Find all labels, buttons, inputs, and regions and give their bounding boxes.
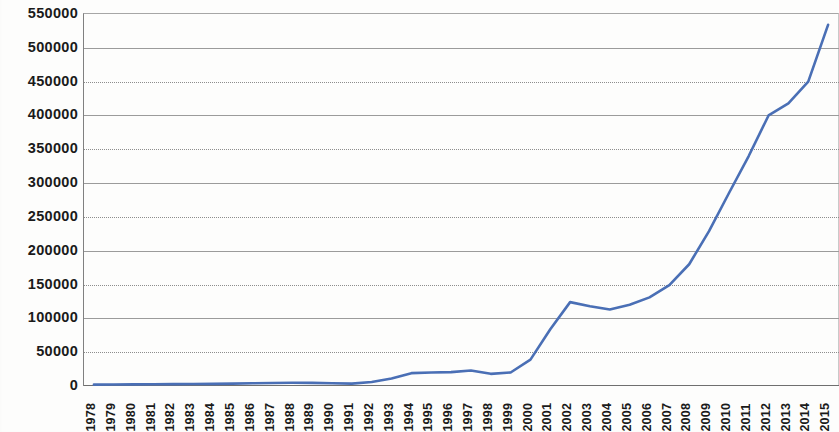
y-axis-tick-label: 450000 [0,73,78,88]
x-axis-tick-label: 1991 [343,403,356,432]
x-axis-tick-label: 1995 [423,403,436,432]
x-axis-tick-label: 1985 [224,403,237,432]
x-axis-tick-label: 2005 [621,403,634,432]
x-axis-tick-label: 1990 [324,403,337,432]
x-axis-tick-label: 1981 [145,403,158,432]
y-axis-tick-label: 500000 [0,40,78,55]
y-axis-tick-label: 400000 [0,107,78,122]
x-axis-tick-label: 1997 [463,403,476,432]
y-axis-tick-label: 250000 [0,209,78,224]
x-axis-tick-label: 1988 [284,403,297,432]
x-axis-tick-label: 2015 [820,403,833,432]
x-axis-tick-label: 2008 [681,403,694,432]
x-axis-tick-label: 2007 [661,403,674,432]
x-axis-tick-label: 2000 [522,403,535,432]
chart-page: 5500005000004500004000003500003000002500… [0,0,839,432]
x-axis-tick-label: 1978 [86,403,99,432]
x-axis-tick-label: 1989 [304,403,317,432]
data-series-line [84,14,838,386]
x-axis-tick-label: 2001 [542,403,555,432]
y-axis-tick-label: 100000 [0,310,78,325]
x-axis-tick-label: 1979 [105,403,118,432]
x-axis-tick-label: 1993 [383,403,396,432]
y-axis-tick-label: 300000 [0,175,78,190]
x-axis-tick-label: 2012 [760,403,773,432]
y-axis-tick-label: 150000 [0,276,78,291]
x-axis-tick-label: 2014 [800,403,813,432]
x-axis-tick-label: 1984 [205,403,218,432]
x-axis-tick-label: 1999 [502,403,515,432]
x-axis-labels: 1978197919801981198219831984198519861987… [83,388,839,432]
x-axis-tick-label: 2003 [582,403,595,432]
y-axis-tick-label: 550000 [0,6,78,21]
plot-area [83,13,839,386]
x-axis-tick-label: 2010 [720,403,733,432]
x-axis-tick-label: 1987 [264,403,277,432]
y-axis-labels: 5500005000004500004000003500003000002500… [0,0,78,432]
y-axis-tick-label: 350000 [0,141,78,156]
x-axis-tick-label: 2004 [601,403,614,432]
y-axis-tick-label: 200000 [0,242,78,257]
x-axis-tick-label: 2013 [780,403,793,432]
x-axis-tick-label: 1986 [244,403,257,432]
y-axis-tick-label: 50000 [0,344,78,359]
x-axis-tick-label: 1996 [443,403,456,432]
x-axis-tick-label: 2009 [701,403,714,432]
x-axis-tick-label: 2002 [562,403,575,432]
y-axis-tick-label: 0 [0,378,78,393]
x-axis-tick-label: 2006 [641,403,654,432]
x-axis-tick-label: 1994 [403,403,416,432]
x-axis-tick-label: 1980 [125,403,138,432]
x-axis-tick-label: 1982 [165,403,178,432]
x-axis-tick-label: 2011 [740,404,753,432]
x-axis-tick-label: 1992 [363,403,376,432]
x-axis-tick-label: 1998 [482,403,495,432]
x-axis-tick-label: 1983 [185,403,198,432]
